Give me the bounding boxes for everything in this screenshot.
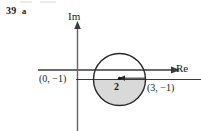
complex-plane-figure: 39 a Im Re (0, −1) (3, −1) 2 xyxy=(0,0,201,131)
real-axis-label: Re xyxy=(176,63,188,74)
diagram-canvas xyxy=(0,0,201,131)
problem-number: 39 xyxy=(6,6,16,16)
point-label-center: (3, −1) xyxy=(147,83,174,93)
radius-value-label: 2 xyxy=(114,82,119,92)
shaded-half-disk xyxy=(94,80,146,106)
imaginary-axis-label: Im xyxy=(68,11,80,22)
circle-center-dot xyxy=(118,77,121,80)
point-label-origin-minus-i: (0, −1) xyxy=(39,74,66,84)
problem-letter: a xyxy=(22,7,26,16)
imaginary-axis-arrowhead xyxy=(74,21,81,29)
